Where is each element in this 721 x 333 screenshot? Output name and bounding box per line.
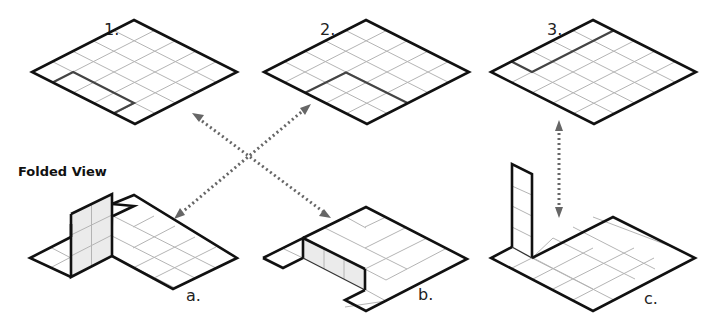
flat-net-3: [491, 20, 696, 124]
flat-net-1: [32, 20, 237, 124]
folded-view-c: [491, 164, 695, 311]
folded-view-a: [30, 194, 237, 289]
diagram-canvas: [0, 0, 721, 333]
flat-net-2: [264, 20, 469, 124]
arrow-net1-to-b: [192, 113, 331, 218]
arrow-net2-to-a: [174, 104, 311, 219]
arrow-net3-to-c: [555, 120, 563, 218]
folded-view-b: [263, 207, 467, 311]
